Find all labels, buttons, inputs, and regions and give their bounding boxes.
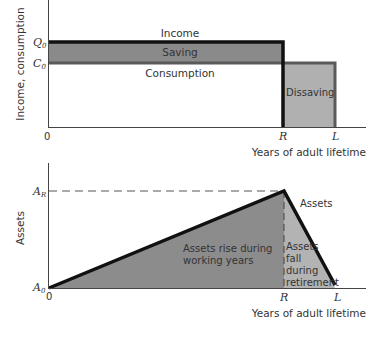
ar-tick: AR [32,185,47,199]
top-y-label: Income, consumption [14,7,26,120]
top-x-label: Years of adult lifetime [251,146,366,158]
income-label: Income [161,27,200,39]
top-r-tick: R [278,130,287,143]
bottom-y-label: Assets [14,211,26,245]
consumption-label: Consumption [145,67,215,79]
bottom-l-tick: L [333,291,341,304]
rise-label-1: Assets rise during [183,243,272,254]
dissaving-label: Dissaving [286,87,334,98]
bottom-origin-tick: 0 [46,291,52,302]
bottom-chart: Assets AR A0 0 Assets Assets rise during… [14,163,366,319]
fall-label-1: Assets [286,241,319,252]
top-origin-tick: 0 [44,131,50,142]
fall-label-3: during [286,265,318,276]
life-cycle-charts: Income, consumption Q0 C0 Income Saving … [0,0,384,340]
c0-tick: C0 [33,57,46,71]
q0-tick: Q0 [33,36,47,50]
saving-label: Saving [162,46,198,58]
fall-label-2: fall [286,253,301,264]
top-l-tick: L [331,130,339,143]
a0-tick: A0 [32,281,46,295]
bottom-x-label: Years of adult lifetime [251,307,366,319]
top-chart: Income, consumption Q0 C0 Income Saving … [14,0,366,158]
rise-label-2: working years [183,255,253,266]
bottom-r-tick: R [279,291,288,304]
fall-label-4: retirement [286,277,339,288]
assets-label: Assets [300,198,333,209]
